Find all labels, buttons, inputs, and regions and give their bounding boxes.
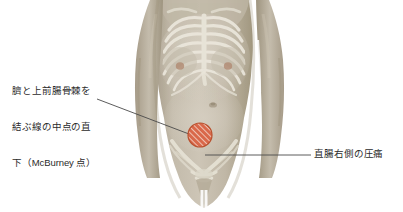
navel: [209, 102, 217, 107]
mcburney-point-label: 臍と上前腸骨棘を 結ぶ線の中点の直 下（McBurney 点）: [12, 61, 96, 193]
rectal-tenderness-label: 直腸右側の圧痛: [314, 148, 383, 160]
mcburney-point-marker[interactable]: [188, 123, 212, 147]
illustration-page: 臍と上前腸骨棘を 結ぶ線の中点の直 下（McBurney 点） 直腸右側の圧痛: [0, 0, 403, 212]
mcburney-label-line-1: 臍と上前腸骨棘を: [12, 85, 96, 97]
arm-right: [256, 0, 284, 178]
mcburney-label-line-3: 下（McBurney 点）: [12, 157, 96, 169]
mcburney-label-line-2: 結ぶ線の中点の直: [12, 121, 96, 133]
